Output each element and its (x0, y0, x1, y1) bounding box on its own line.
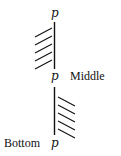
bottom-point-label: p (51, 136, 59, 150)
middle-point-label: p (51, 69, 59, 83)
upper-wall (35, 22, 55, 69)
wall-diagram: p p Middle Bottom p (0, 0, 121, 156)
lower-wall-hatching (58, 97, 75, 138)
bottom-text: Bottom (4, 136, 41, 150)
top-point-label: p (51, 6, 59, 20)
upper-wall-hatching (35, 28, 52, 69)
middle-text: Middle (70, 69, 105, 83)
lower-wall (55, 87, 76, 138)
